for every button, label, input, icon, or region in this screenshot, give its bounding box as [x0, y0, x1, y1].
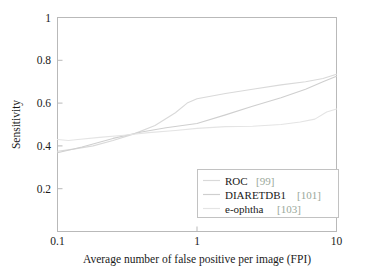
x-axis-title: Average number of false positive per ima…	[83, 253, 311, 266]
x-tick-label-0_1: 0.1	[50, 235, 65, 247]
y-tick-label-1: 1	[45, 12, 51, 24]
y-tick-label-0_8: 0.8	[37, 54, 52, 66]
y-axis-title: Sensitivity	[10, 100, 23, 149]
legend-label-e-ophtha: e-ophtha	[225, 203, 264, 215]
x-tick-label-1: 1	[194, 235, 200, 247]
legend-citation-roc: [99]	[256, 175, 274, 187]
sensitivity-fpi-line-chart: 1 0.8 0.6 0.4 0.2 0.1 1 10 Average numbe…	[0, 0, 366, 272]
y-tick-label-0_6: 0.6	[37, 97, 52, 109]
y-tick-label-0_2: 0.2	[37, 183, 52, 195]
legend-citation-e-ophtha: [103]	[277, 203, 301, 215]
legend-label-roc: ROC	[225, 175, 248, 187]
chart-figure: 1 0.8 0.6 0.4 0.2 0.1 1 10 Average numbe…	[0, 0, 366, 272]
legend-citation-diaretdb1: [101]	[297, 189, 321, 201]
x-tick-label-10: 10	[331, 235, 343, 247]
legend: ROC [99] DIARETDB1 [101] e-ophtha [103]	[198, 170, 339, 218]
legend-label-diaretdb1: DIARETDB1	[225, 189, 286, 201]
y-tick-label-0_4: 0.4	[37, 140, 52, 152]
